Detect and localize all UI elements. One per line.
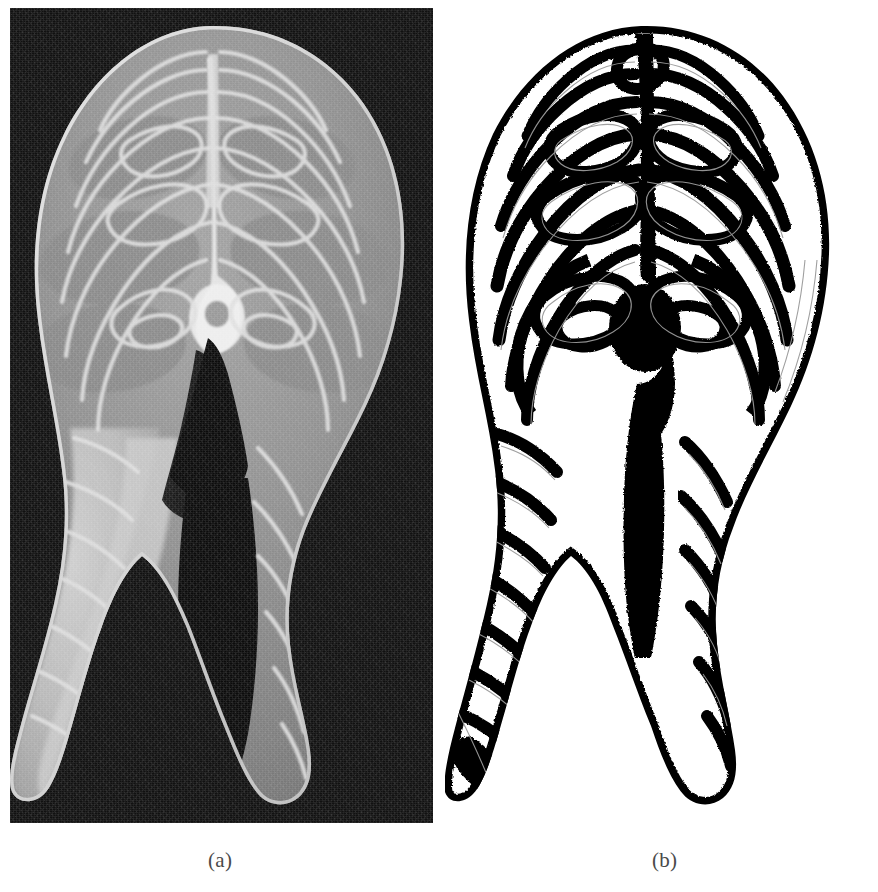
binary-segmentation-image xyxy=(445,10,868,822)
caption-panel-a: (a) xyxy=(208,848,232,873)
fish-cross-section-photo xyxy=(10,8,433,823)
caption-panel-b: (b) xyxy=(652,848,677,873)
panel-a-photograph xyxy=(10,8,433,823)
panel-b-binary-segmentation xyxy=(445,10,868,822)
photo-noise xyxy=(10,8,433,823)
figure-root: (a) (b) xyxy=(0,0,878,892)
